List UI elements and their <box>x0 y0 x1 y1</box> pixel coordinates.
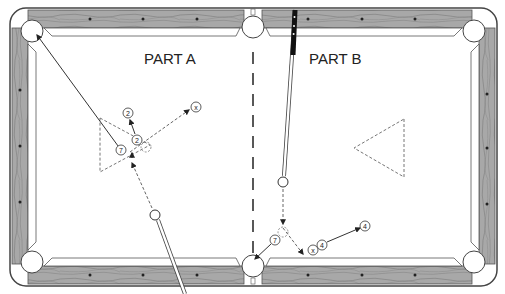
rail-bottom-left <box>28 266 244 284</box>
cushion-left <box>28 44 36 250</box>
svg-text:7: 7 <box>273 237 277 244</box>
cushion-bottom-left <box>44 258 240 266</box>
svg-text:2: 2 <box>126 110 130 117</box>
rail-right <box>479 28 495 264</box>
middle-marker-bottom <box>251 278 255 284</box>
pocket-bottom-middle <box>242 255 264 277</box>
part-b-label: PART B <box>309 50 362 67</box>
table-drawing: 2 2 7 x 7 x 4 4 <box>0 0 505 294</box>
cushion-right <box>471 44 479 250</box>
pocket-top-middle <box>242 16 264 38</box>
svg-text:4: 4 <box>320 242 324 249</box>
pocket-top-right <box>463 20 485 42</box>
pocket-bottom-right <box>463 251 485 273</box>
rail-bottom-right <box>262 266 472 284</box>
cushion-top-left <box>44 28 240 36</box>
svg-text:x: x <box>194 104 198 111</box>
cue-ball-b <box>278 177 288 187</box>
middle-marker-top <box>251 9 255 15</box>
svg-text:x: x <box>311 247 315 254</box>
rail-top-left <box>28 10 244 28</box>
svg-text:4: 4 <box>363 223 367 230</box>
pool-table-diagram: 2 2 7 x 7 x 4 4 PART A PART B <box>0 0 505 294</box>
svg-text:2: 2 <box>135 137 139 144</box>
pocket-bottom-left <box>21 251 43 273</box>
cushion-bottom-right <box>266 258 462 266</box>
part-a-label: PART A <box>144 50 196 67</box>
svg-text:7: 7 <box>119 147 123 154</box>
cue-ball-a <box>150 210 160 220</box>
